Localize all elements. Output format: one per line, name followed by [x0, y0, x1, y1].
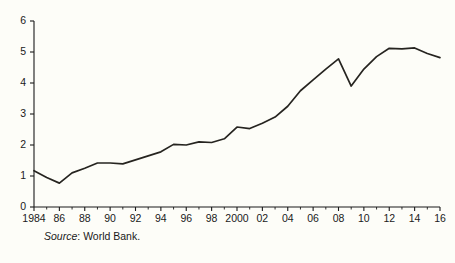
chart-figure: 0123456198486889092949698200002040608101…: [0, 0, 455, 263]
x-axis-tick-label: 06: [307, 212, 319, 224]
x-axis-tick-label: 86: [54, 212, 66, 224]
y-axis-tick-label: 0: [20, 200, 26, 212]
x-axis-tick-label: 94: [155, 212, 167, 224]
y-axis-tick-label: 2: [20, 138, 26, 150]
x-axis-tick-label: 14: [409, 212, 421, 224]
data-series-line-0: [34, 48, 440, 183]
y-axis-tick-label: 5: [20, 45, 26, 57]
source-note: Source: World Bank.: [44, 230, 140, 242]
y-axis-tick-label: 3: [20, 107, 26, 119]
x-axis-tick-label: 16: [434, 212, 446, 224]
x-axis-tick-label: 90: [104, 212, 116, 224]
source-label: Source: [44, 230, 77, 242]
y-axis-tick-label: 1: [20, 169, 26, 181]
x-axis-tick-label: 12: [383, 212, 395, 224]
x-axis-tick-label: 2000: [225, 212, 249, 224]
source-text: World Bank.: [83, 230, 140, 242]
line-chart: 0123456198486889092949698200002040608101…: [0, 0, 455, 263]
x-axis-tick-label: 10: [358, 212, 370, 224]
x-axis-tick-label: 08: [333, 212, 345, 224]
y-axis-tick-label: 6: [20, 14, 26, 26]
x-axis-tick-label: 04: [282, 212, 294, 224]
x-axis-tick-label: 88: [79, 212, 91, 224]
x-axis-tick-label: 96: [180, 212, 192, 224]
x-axis-tick-label: 1984: [22, 212, 46, 224]
y-axis-tick-label: 4: [20, 76, 26, 88]
x-axis-tick-label: 92: [130, 212, 142, 224]
x-axis-tick-label: 02: [257, 212, 269, 224]
x-axis-tick-label: 98: [206, 212, 218, 224]
